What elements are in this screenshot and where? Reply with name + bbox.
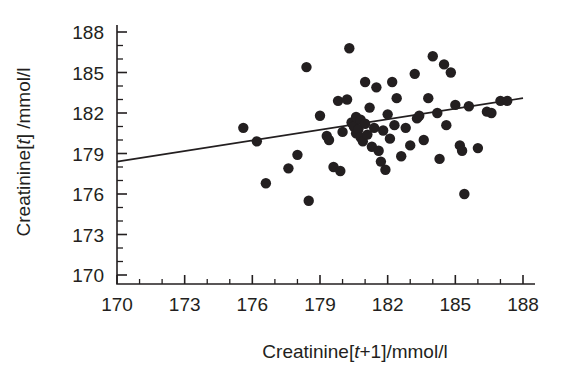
data-point bbox=[380, 165, 390, 175]
data-point bbox=[473, 143, 483, 153]
data-point bbox=[502, 96, 512, 106]
data-point bbox=[401, 123, 411, 133]
data-point bbox=[261, 178, 271, 188]
data-point bbox=[360, 119, 370, 129]
data-point bbox=[439, 59, 449, 69]
data-point bbox=[387, 77, 397, 87]
y-tick-label: 185 bbox=[72, 63, 104, 84]
data-point bbox=[337, 127, 347, 137]
data-point bbox=[342, 94, 352, 104]
x-tick-label: 173 bbox=[169, 294, 201, 315]
data-point bbox=[441, 120, 451, 130]
data-point bbox=[423, 93, 433, 103]
data-point bbox=[283, 163, 293, 173]
data-point bbox=[364, 102, 374, 112]
data-point bbox=[304, 196, 314, 206]
data-point bbox=[446, 67, 456, 77]
data-point bbox=[428, 51, 438, 61]
data-points bbox=[238, 43, 512, 206]
data-point bbox=[252, 136, 262, 146]
x-tick-label: 179 bbox=[304, 294, 336, 315]
data-point bbox=[315, 111, 325, 121]
data-point bbox=[292, 150, 302, 160]
x-tick-label: 176 bbox=[236, 294, 268, 315]
data-point bbox=[373, 146, 383, 156]
data-point bbox=[371, 82, 381, 92]
data-point bbox=[385, 133, 395, 143]
y-tick-label: 179 bbox=[72, 144, 104, 165]
data-point bbox=[434, 154, 444, 164]
x-tick-label: 188 bbox=[507, 294, 539, 315]
data-point bbox=[464, 101, 474, 111]
y-tick-label: 170 bbox=[72, 265, 104, 286]
data-point bbox=[238, 123, 248, 133]
data-point bbox=[410, 69, 420, 79]
data-point bbox=[414, 111, 424, 121]
y-axis-title: Creatinine[t] /mmol/l bbox=[13, 68, 34, 237]
y-tick-label: 176 bbox=[72, 184, 104, 205]
data-point bbox=[369, 123, 379, 133]
scatter-plot-figure: 1701731761791821851881701731761791821851… bbox=[0, 0, 568, 365]
data-point bbox=[301, 62, 311, 72]
data-point bbox=[378, 125, 388, 135]
data-point bbox=[457, 146, 467, 156]
x-tick-label: 182 bbox=[372, 294, 404, 315]
x-tick-label: 170 bbox=[101, 294, 133, 315]
data-point bbox=[360, 77, 370, 87]
y-tick-label: 188 bbox=[72, 22, 104, 43]
data-point bbox=[389, 120, 399, 130]
data-point bbox=[396, 151, 406, 161]
data-point bbox=[419, 135, 429, 145]
data-point bbox=[405, 140, 415, 150]
axes bbox=[117, 25, 535, 284]
y-tick-label: 173 bbox=[72, 225, 104, 246]
x-tick-label: 185 bbox=[439, 294, 471, 315]
data-point bbox=[450, 100, 460, 110]
chart-canvas: 1701731761791821851881701731761791821851… bbox=[0, 0, 568, 365]
data-point bbox=[382, 109, 392, 119]
axis-spines bbox=[117, 25, 535, 284]
data-point bbox=[459, 189, 469, 199]
data-point bbox=[486, 108, 496, 118]
data-point bbox=[333, 96, 343, 106]
y-tick-label: 182 bbox=[72, 103, 104, 124]
x-axis-title: Creatinine[t+1]/mmol/l bbox=[262, 341, 447, 362]
data-point bbox=[432, 108, 442, 118]
data-point bbox=[335, 166, 345, 176]
data-point bbox=[391, 93, 401, 103]
data-point bbox=[324, 135, 334, 145]
data-point bbox=[344, 43, 354, 53]
